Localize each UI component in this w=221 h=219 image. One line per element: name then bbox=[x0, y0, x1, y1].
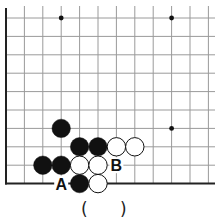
white-stone bbox=[107, 138, 125, 156]
point-label-a[interactable]: A bbox=[55, 176, 67, 193]
black-stone bbox=[70, 174, 88, 192]
star-point bbox=[169, 126, 174, 131]
star-point bbox=[169, 16, 174, 21]
white-stone bbox=[126, 138, 144, 156]
white-stone bbox=[89, 174, 107, 192]
white-stone bbox=[70, 156, 88, 174]
black-stone bbox=[70, 138, 88, 156]
white-stone bbox=[89, 156, 107, 174]
go-board: BA bbox=[0, 0, 221, 219]
answer-close-paren: ) bbox=[120, 199, 127, 219]
stones-layer bbox=[34, 119, 144, 193]
black-stone bbox=[89, 138, 107, 156]
black-stone bbox=[52, 119, 70, 137]
black-stone bbox=[34, 156, 52, 174]
black-stone bbox=[52, 156, 70, 174]
star-point bbox=[59, 16, 64, 21]
answer-open-paren: ( bbox=[81, 199, 88, 219]
point-label-b[interactable]: B bbox=[111, 157, 123, 174]
